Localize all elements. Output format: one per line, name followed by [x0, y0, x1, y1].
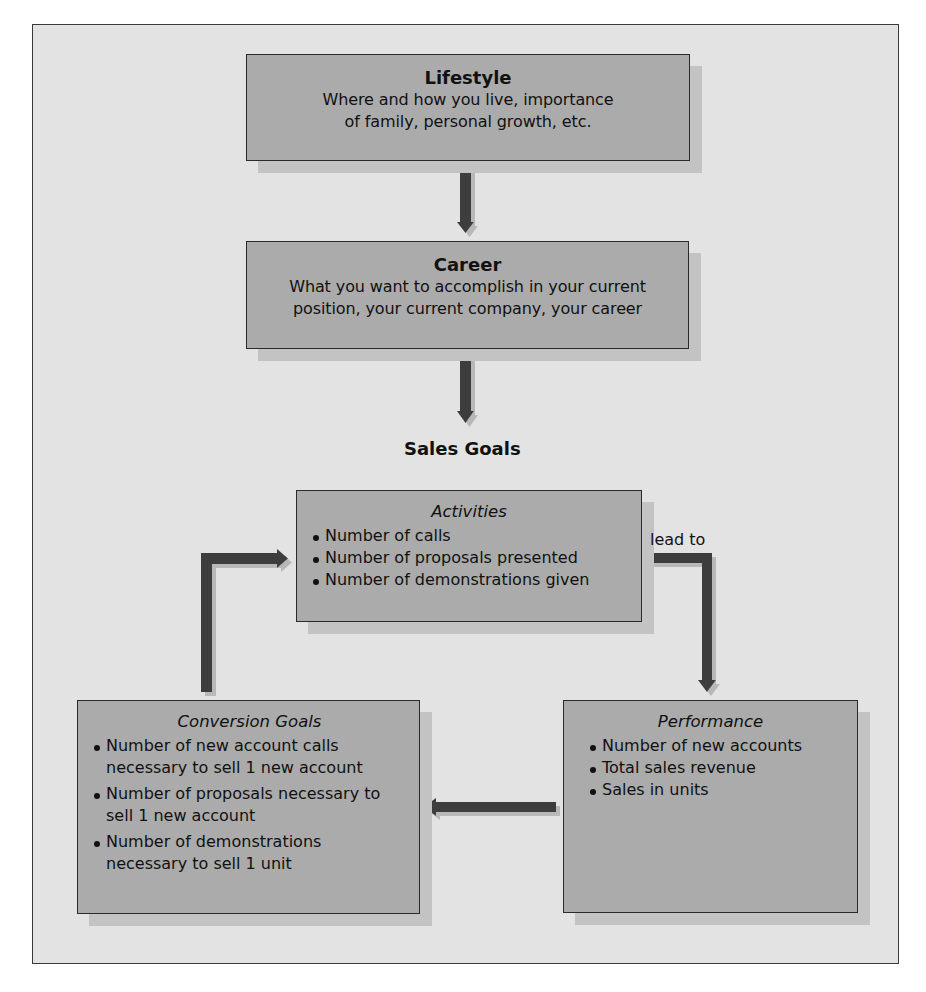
activities-item: Number of demonstrations given [311, 569, 641, 591]
lead-to-label: lead to [650, 530, 705, 549]
performance-title: Performance [588, 711, 833, 733]
activities-list: Number of calls Number of proposals pres… [311, 525, 641, 591]
lifestyle-desc-line-1: Where and how you live, importance [247, 89, 689, 111]
performance-item: Number of new accounts [588, 735, 847, 757]
conversion-goals-list: Number of new account calls necessary to… [92, 735, 407, 875]
lifestyle-title: Lifestyle [247, 67, 689, 89]
career-title: Career [247, 254, 688, 276]
career-desc-line-2: position, your current company, your car… [247, 298, 688, 320]
sales-goals-label: Sales Goals [404, 438, 521, 459]
lifestyle-box: Lifestyle Where and how you live, import… [246, 54, 690, 161]
performance-item: Sales in units [588, 779, 847, 801]
career-desc-line-1: What you want to accomplish in your curr… [247, 276, 688, 298]
conversion-goals-title: Conversion Goals [92, 711, 407, 733]
performance-list: Number of new accounts Total sales reven… [588, 735, 847, 801]
conversion-goals-item: Number of new account calls necessary to… [92, 735, 407, 779]
activities-title: Activities [311, 501, 627, 523]
lifestyle-desc-line-2: of family, personal growth, etc. [247, 111, 689, 133]
activities-item: Number of calls [311, 525, 641, 547]
activities-item: Number of proposals presented [311, 547, 641, 569]
performance-box: Performance Number of new accounts Total… [563, 700, 858, 913]
conversion-goals-box: Conversion Goals Number of new account c… [77, 700, 420, 914]
activities-box: Activities Number of calls Number of pro… [296, 490, 642, 622]
conversion-goals-item: Number of demonstrations necessary to se… [92, 831, 407, 875]
career-box: Career What you want to accomplish in yo… [246, 241, 689, 349]
performance-item: Total sales revenue [588, 757, 847, 779]
conversion-goals-item: Number of proposals necessary to sell 1 … [92, 783, 407, 827]
